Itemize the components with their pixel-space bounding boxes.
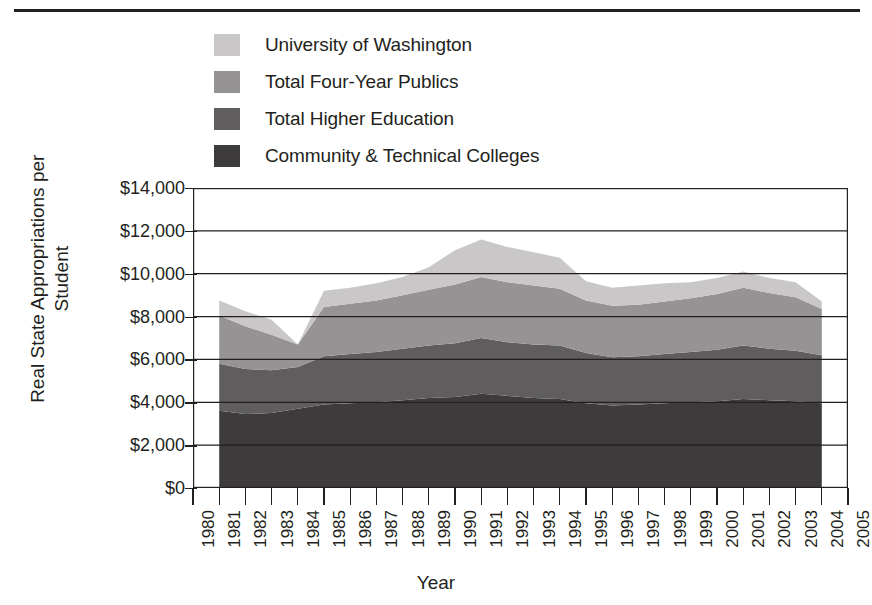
x-tick-label: 1991: [487, 510, 507, 548]
x-tick-mark: [507, 488, 508, 505]
chart-legend: University of WashingtonTotal Four-Year …: [214, 26, 634, 174]
x-tick-label: 1993: [540, 510, 560, 548]
x-tick-mark: [821, 488, 822, 505]
y-axis-title: Real State Appropriations per Student: [26, 124, 74, 434]
x-tick-mark: [350, 488, 351, 505]
x-tick-label: 1996: [618, 510, 638, 548]
x-tick-label: 2002: [775, 510, 795, 548]
y-tick-label: $4,000: [85, 392, 185, 413]
x-tick-label: 1984: [304, 510, 324, 548]
x-tick-label: 1980: [199, 510, 219, 548]
x-tick-label: 1998: [671, 510, 691, 548]
x-tick-mark: [847, 488, 848, 505]
y-tick-label: $6,000: [85, 349, 185, 370]
y-axis-tick-labels: $0$2,000$4,000$6,000$8,000$10,000$12,000…: [75, 188, 185, 488]
x-tick-mark: [585, 488, 586, 505]
x-axis-tick-labels: 1980198119821983198419851986198719881989…: [193, 494, 848, 564]
x-tick-mark: [559, 488, 560, 505]
x-axis-title: Year: [0, 572, 872, 594]
legend-swatch-icon: [214, 108, 240, 130]
y-tick-label: $10,000: [85, 263, 185, 284]
x-tick-label: 1983: [278, 510, 298, 548]
x-tick-label: 1982: [251, 510, 271, 548]
x-tick-label: 1995: [592, 510, 612, 548]
legend-item: Community & Technical Colleges: [214, 137, 634, 174]
x-tick-mark: [376, 488, 377, 505]
x-tick-label: 2001: [749, 510, 769, 548]
x-tick-label: 1988: [409, 510, 429, 548]
legend-item-label: University of Washington: [265, 34, 472, 56]
x-tick-mark: [638, 488, 639, 505]
legend-item: Total Four-Year Publics: [214, 63, 634, 100]
legend-item-label: Total Higher Education: [265, 108, 454, 130]
legend-item: University of Washington: [214, 26, 634, 63]
stacked-area-plot: [193, 188, 848, 488]
x-tick-label: 1990: [461, 510, 481, 548]
x-tick-mark: [664, 488, 665, 505]
legend-item-label: Community & Technical Colleges: [265, 145, 539, 167]
x-tick-label: 1999: [697, 510, 717, 548]
x-tick-mark: [271, 488, 272, 505]
x-tick-mark: [612, 488, 613, 505]
x-tick-mark: [716, 488, 717, 505]
x-tick-label: 2003: [802, 510, 822, 548]
y-tick-label: $14,000: [85, 178, 185, 199]
area-series-0: [219, 394, 822, 488]
legend-swatch-icon: [214, 71, 240, 93]
legend-item-label: Total Four-Year Publics: [265, 71, 458, 93]
top-divider-rule: [14, 9, 860, 12]
y-tick-label: $8,000: [85, 306, 185, 327]
x-tick-mark: [769, 488, 770, 505]
x-tick-label: 2005: [854, 510, 872, 548]
x-tick-label: 1989: [435, 510, 455, 548]
x-tick-mark: [297, 488, 298, 505]
x-tick-mark: [454, 488, 455, 505]
x-tick-label: 1987: [382, 510, 402, 548]
x-tick-mark: [219, 488, 220, 505]
y-tick-label: $12,000: [85, 220, 185, 241]
x-tick-mark: [743, 488, 744, 505]
y-tick-label: $2,000: [85, 435, 185, 456]
legend-swatch-icon: [214, 34, 240, 56]
x-tick-label: 2004: [828, 510, 848, 548]
legend-swatch-icon: [214, 145, 240, 167]
x-tick-label: 1992: [513, 510, 533, 548]
x-tick-mark: [481, 488, 482, 505]
x-tick-mark: [428, 488, 429, 505]
x-tick-label: 1994: [566, 510, 586, 548]
x-tick-mark: [795, 488, 796, 505]
x-tick-label: 1981: [225, 510, 245, 548]
x-tick-label: 1997: [644, 510, 664, 548]
y-tick-mark: [185, 488, 197, 489]
x-tick-label: 1985: [330, 510, 350, 548]
x-tick-mark: [690, 488, 691, 505]
x-tick-label: 2000: [723, 510, 743, 548]
chart-figure: University of WashingtonTotal Four-Year …: [0, 0, 872, 605]
x-tick-mark: [245, 488, 246, 505]
x-tick-mark: [192, 488, 193, 505]
x-tick-mark: [533, 488, 534, 505]
x-tick-mark: [323, 488, 324, 505]
legend-item: Total Higher Education: [214, 100, 634, 137]
plot-area: [193, 188, 848, 488]
x-tick-mark: [402, 488, 403, 505]
y-tick-label: $0: [85, 478, 185, 499]
x-tick-label: 1986: [356, 510, 376, 548]
